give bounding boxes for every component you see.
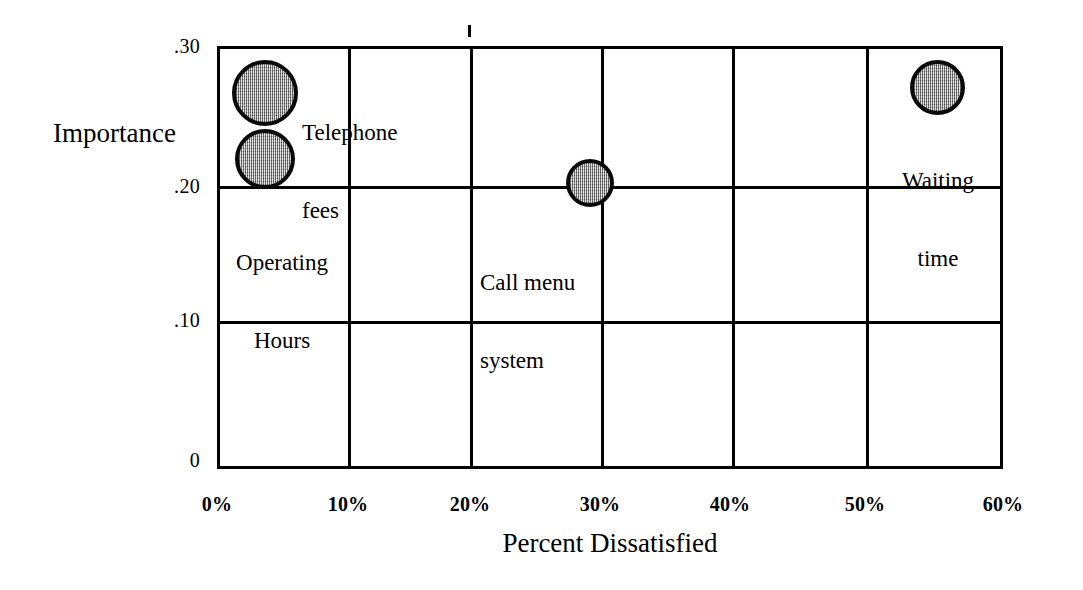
point-label-call-menu-system-line1: Call menu (480, 270, 575, 296)
y-axis-title: Importance (53, 118, 176, 148)
point-label-operating-hours: Operating Hours (222, 198, 342, 406)
bubble-chart: Importance .30 .20 .10 0 Telephone fees … (0, 0, 1083, 590)
x-tick-label-30pct: 30% (560, 494, 640, 514)
x-tick-label-0pct: 0% (177, 494, 257, 514)
y-tick-label-0: 0 (128, 450, 200, 470)
x-tick-label-60pct: 60% (963, 494, 1043, 514)
point-label-telephone-fees-line1: Telephone (302, 120, 397, 146)
x-tick-label-10pct: 10% (308, 494, 388, 514)
gridline-vertical-30pct (601, 49, 604, 466)
gridline-vertical-50pct (866, 49, 869, 466)
bubble-telephone-fees[interactable] (232, 60, 298, 126)
top-tick-mark-20pct (468, 25, 471, 37)
point-label-call-menu-system-line2: system (480, 348, 575, 374)
point-label-waiting-time: Waiting time (880, 116, 996, 324)
bubble-operating-hours[interactable] (235, 129, 295, 189)
x-axis-title: Percent Dissatisfied (410, 528, 810, 558)
x-tick-label-20pct: 20% (430, 494, 510, 514)
y-tick-label-030: .30 (128, 36, 200, 56)
point-label-waiting-time-line2: time (880, 246, 996, 272)
point-label-operating-hours-line2: Hours (222, 328, 342, 354)
point-label-waiting-time-line1: Waiting (880, 168, 996, 194)
point-label-call-menu-system: Call menu system (480, 218, 575, 426)
x-tick-label-40pct: 40% (690, 494, 770, 514)
gridline-vertical-20pct (470, 49, 473, 466)
bubble-call-menu-system[interactable] (566, 159, 614, 207)
point-label-operating-hours-line1: Operating (222, 250, 342, 276)
x-tick-label-50pct: 50% (825, 494, 905, 514)
gridline-vertical-40pct (732, 49, 735, 466)
y-tick-label-020: .20 (128, 176, 200, 196)
bubble-waiting-time[interactable] (910, 60, 965, 115)
y-tick-label-010: .10 (128, 310, 200, 330)
